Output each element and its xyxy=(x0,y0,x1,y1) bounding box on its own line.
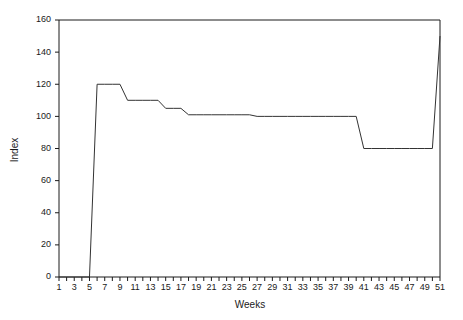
x-tick-label: 37 xyxy=(328,282,338,292)
x-tick-label: 39 xyxy=(344,282,354,292)
x-tick-label: 25 xyxy=(237,282,247,292)
x-tick-label: 9 xyxy=(117,282,122,292)
x-tick-label: 33 xyxy=(298,282,308,292)
x-tick-label: 13 xyxy=(145,282,155,292)
y-axis-tick-labels: 020406080100120140160 xyxy=(36,14,51,281)
y-tick-label: 120 xyxy=(36,79,51,89)
y-tick-label: 160 xyxy=(36,14,51,24)
y-tick-label: 40 xyxy=(41,207,51,217)
x-axis-ticks xyxy=(59,277,440,281)
x-tick-label: 49 xyxy=(420,282,430,292)
x-tick-label: 5 xyxy=(87,282,92,292)
x-tick-label: 23 xyxy=(222,282,232,292)
chart-canvas: 020406080100120140160 135791113151719212… xyxy=(0,0,463,320)
data-series-line xyxy=(59,36,440,277)
x-tick-label: 19 xyxy=(191,282,201,292)
x-tick-label: 1 xyxy=(56,282,61,292)
x-tick-label: 43 xyxy=(374,282,384,292)
y-tick-label: 0 xyxy=(46,271,51,281)
x-tick-label: 45 xyxy=(389,282,399,292)
x-tick-label: 3 xyxy=(72,282,77,292)
x-tick-label: 7 xyxy=(102,282,107,292)
y-tick-label: 140 xyxy=(36,47,51,57)
x-tick-label: 15 xyxy=(161,282,171,292)
y-axis-ticks xyxy=(55,20,59,277)
x-axis-tick-labels: 1357911131517192123252729313335373941434… xyxy=(56,282,445,292)
line-chart: 020406080100120140160 135791113151719212… xyxy=(0,0,463,320)
y-tick-label: 80 xyxy=(41,143,51,153)
data-series-layer xyxy=(59,36,440,277)
y-axis-title: Index xyxy=(9,138,20,162)
x-tick-label: 17 xyxy=(176,282,186,292)
x-tick-label: 35 xyxy=(313,282,323,292)
x-tick-label: 51 xyxy=(435,282,445,292)
x-tick-label: 41 xyxy=(359,282,369,292)
x-axis-title: Weeks xyxy=(235,299,265,310)
x-tick-label: 47 xyxy=(405,282,415,292)
y-tick-label: 20 xyxy=(41,239,51,249)
y-tick-label: 60 xyxy=(41,175,51,185)
y-tick-label: 100 xyxy=(36,111,51,121)
x-tick-label: 21 xyxy=(206,282,216,292)
x-tick-label: 29 xyxy=(267,282,277,292)
x-tick-label: 31 xyxy=(283,282,293,292)
x-tick-label: 11 xyxy=(131,282,140,292)
x-tick-label: 27 xyxy=(252,282,262,292)
